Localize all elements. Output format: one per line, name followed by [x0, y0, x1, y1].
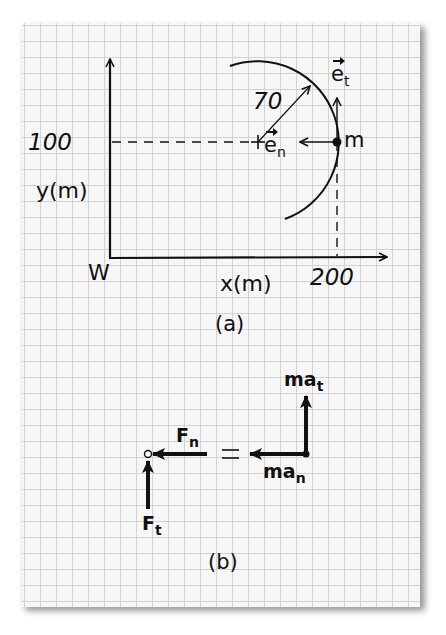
fn-base: F — [176, 424, 189, 446]
ft-base: F — [142, 512, 155, 534]
figure-b-caption: (b) — [208, 552, 238, 573]
equals-sign — [222, 450, 239, 458]
et-sub: t — [344, 73, 350, 89]
force-fn-label: Fn — [176, 426, 199, 449]
ft-sub: t — [155, 522, 162, 538]
particle-circle — [145, 451, 152, 458]
figure-a-caption: (a) — [215, 314, 244, 335]
force-ft-label: Ft — [142, 514, 162, 537]
man-base: ma — [263, 460, 296, 482]
radius-label: 70 — [253, 90, 282, 113]
inertia-man-label: man — [263, 462, 306, 485]
inertia-point — [303, 451, 310, 458]
mat-sub: t — [317, 378, 324, 394]
x-axis — [109, 257, 387, 258]
mat-base: ma — [284, 368, 317, 390]
mass-point — [333, 138, 342, 147]
et-base: e — [331, 64, 344, 85]
figure-b — [145, 396, 310, 509]
inertia-mat-label: mat — [284, 370, 323, 393]
man-sub: n — [296, 470, 306, 486]
unit-vector-et-label: et — [331, 64, 349, 88]
y-axis-label: y(m) — [36, 180, 88, 202]
mass-label: m — [344, 130, 364, 151]
origin-label: W — [88, 262, 110, 284]
y-tick-100: 100 — [28, 131, 72, 154]
x-tick-200: 200 — [310, 266, 354, 289]
unit-vector-en-label: en — [264, 135, 286, 159]
en-base: e — [264, 135, 277, 156]
fn-sub: n — [189, 434, 199, 450]
en-sub: n — [277, 144, 286, 160]
x-axis-label: x(m) — [220, 273, 272, 295]
